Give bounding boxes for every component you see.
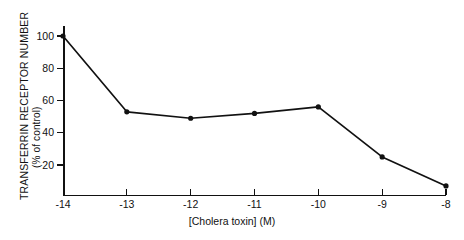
data-point--9 [380,154,385,159]
x-tick-label--8: -8 [429,199,463,210]
chart-figure: TRANSFERRIN RECEPTOR NUMBER (% of contro… [0,0,464,240]
x-tick-label--11: -11 [238,199,272,210]
x-tick--10 [318,189,319,196]
x-tick--9 [382,189,383,196]
x-tick-label--9: -9 [365,199,399,210]
x-tick--12 [190,189,191,196]
x-tick-label--13: -13 [110,199,144,210]
x-tick-label--14: -14 [46,199,80,210]
x-tick-label--12: -12 [174,199,208,210]
data-point--13 [124,109,129,114]
data-point--11 [252,111,257,116]
y-tick-label-60: 60 [28,95,54,106]
y-tick-20 [57,164,63,165]
y-tick-label-80: 80 [28,63,54,74]
y-axis-line [63,26,65,196]
x-tick--13 [126,189,127,196]
data-point--10 [316,104,321,109]
data-point--12 [188,116,193,121]
x-tick-label--10: -10 [301,199,335,210]
y-tick-label-40: 40 [28,127,54,138]
y-tick-label-100: 100 [28,31,54,42]
y-tick-60 [57,100,63,101]
y-tick-40 [57,132,63,133]
y-tick-80 [57,68,63,69]
y-tick-label-20: 20 [28,160,54,171]
data-point-markers [60,33,448,188]
y-tick-100 [57,35,63,36]
line-path [63,36,446,186]
x-tick--8 [445,189,446,196]
x-tick--11 [254,189,255,196]
x-axis-label: [Cholera toxin] (M) [0,215,464,227]
